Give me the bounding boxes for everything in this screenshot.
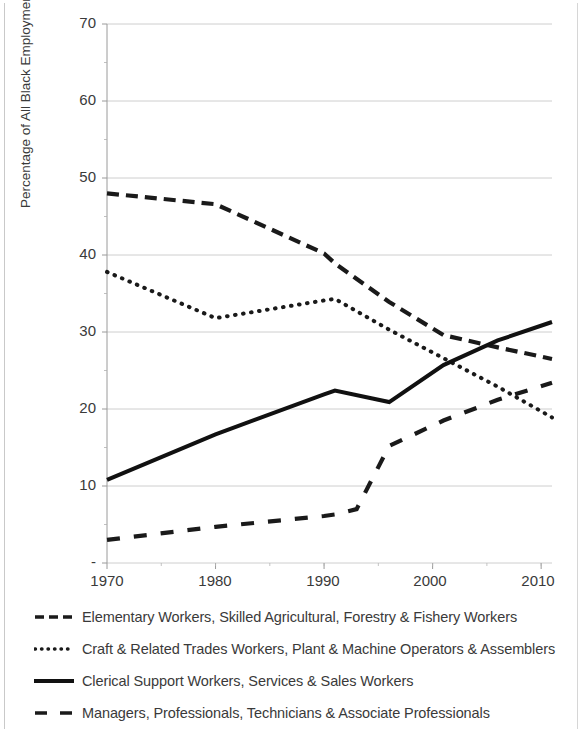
- y-tick-20: 20: [62, 399, 96, 416]
- legend-swatch-dotted: [34, 643, 74, 655]
- x-tick-1990: 1990: [288, 572, 358, 589]
- legend-swatch-dashed-long: [34, 707, 74, 719]
- x-tick-1980: 1980: [180, 572, 250, 589]
- chart-plot-area: Percentage of All Black Employment 70 60…: [0, 0, 583, 600]
- y-tick-50: 50: [62, 168, 96, 185]
- legend-label-0: Elementary Workers, Skilled Agricultural…: [82, 609, 517, 625]
- x-tick-2010: 2010: [503, 572, 573, 589]
- y-axis-label: Percentage of All Black Employment: [18, 0, 33, 208]
- chart-figure: Percentage of All Black Employment 70 60…: [0, 0, 583, 732]
- legend-item-3[interactable]: Managers, Professionals, Technicians & A…: [34, 700, 490, 726]
- series-line-0: [107, 193, 552, 359]
- x-tick-2000: 2000: [395, 572, 465, 589]
- series-line-2: [107, 322, 552, 480]
- data-series-group: [107, 193, 552, 540]
- gridlines: [107, 24, 552, 563]
- legend-item-2[interactable]: Clerical Support Workers, Services & Sal…: [34, 668, 413, 694]
- x-tick-1970: 1970: [72, 572, 142, 589]
- legend-item-1[interactable]: Craft & Related Trades Workers, Plant & …: [34, 636, 555, 662]
- legend-label-2: Clerical Support Workers, Services & Sal…: [82, 673, 413, 689]
- legend-label-1: Craft & Related Trades Workers, Plant & …: [82, 641, 555, 657]
- series-line-3: [107, 383, 552, 540]
- y-tick-60: 60: [62, 91, 96, 108]
- legend-item-0[interactable]: Elementary Workers, Skilled Agricultural…: [34, 604, 517, 630]
- y-tick-40: 40: [62, 245, 96, 262]
- y-tick-0: -: [62, 553, 96, 570]
- plot-svg: [0, 0, 583, 600]
- legend-label-3: Managers, Professionals, Technicians & A…: [82, 705, 490, 721]
- legend-swatch-solid: [34, 675, 74, 687]
- chart-legend: Elementary Workers, Skilled Agricultural…: [0, 600, 583, 732]
- y-tick-30: 30: [62, 322, 96, 339]
- legend-swatch-dashed: [34, 611, 74, 623]
- y-tick-70: 70: [62, 14, 96, 31]
- y-tick-10: 10: [62, 476, 96, 493]
